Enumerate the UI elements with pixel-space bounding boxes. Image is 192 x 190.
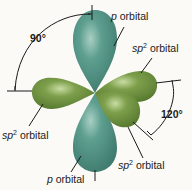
angle-label-90: 90° [30, 33, 46, 44]
label-p-orbital-bottom: p orbital [47, 174, 84, 185]
p-orbital-top-lobe [73, 10, 117, 93]
sp2-orbital-left-lobe [32, 78, 95, 109]
label-p-orbital-top: p orbital [111, 11, 148, 22]
sp2-lower-axis-tick [133, 122, 153, 140]
label-sp2-orbital-left: sp2 orbital [2, 129, 49, 141]
leader-sp2-lower-right [128, 127, 143, 158]
label-sp2-orbital-lower-right: sp2 orbital [118, 159, 165, 171]
leader-sp2-upper-right [141, 58, 152, 73]
label-sp2-orbital-upper-right: sp2 orbital [132, 42, 179, 54]
sp2-right-axis-tick [156, 80, 181, 83]
angle-label-120: 120° [161, 109, 183, 120]
leader-sp2-left [29, 104, 43, 126]
